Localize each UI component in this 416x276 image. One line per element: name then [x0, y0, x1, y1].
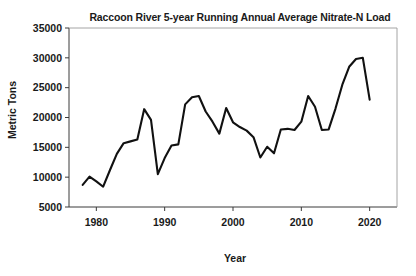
y-tick-label: 20000 — [33, 111, 62, 123]
x-tick-label: 2010 — [290, 216, 314, 228]
data-series-line — [83, 58, 370, 187]
y-tick-label: 30000 — [33, 52, 62, 64]
x-tick-label: 1980 — [85, 216, 109, 228]
y-tick-label: 5000 — [39, 201, 63, 213]
x-tick-label: 2020 — [358, 216, 382, 228]
y-axis-ticks: 5000100001500020000250003000035000 — [33, 22, 69, 213]
y-tick-label: 15000 — [33, 141, 62, 153]
y-tick-label: 25000 — [33, 81, 62, 93]
plot-frame — [69, 28, 397, 207]
x-axis-ticks: 19801990200020102020 — [85, 207, 382, 228]
y-tick-label: 35000 — [33, 22, 62, 34]
x-tick-label: 2000 — [221, 216, 245, 228]
x-tick-label: 1990 — [153, 216, 177, 228]
nitrate-load-line-chart: Raccoon River 5-year Running Annual Aver… — [0, 0, 416, 276]
y-tick-label: 10000 — [33, 171, 62, 183]
plot-area: 5000100001500020000250003000035000 19801… — [0, 0, 416, 276]
